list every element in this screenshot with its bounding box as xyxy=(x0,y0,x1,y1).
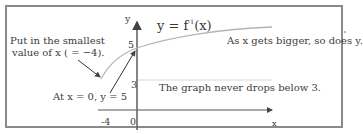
title-prefix: y = f xyxy=(157,18,188,33)
annotation-smallest-line1: Put in the smallest xyxy=(10,35,105,46)
title-suffix: (x) xyxy=(194,18,211,33)
x-axis-label: x xyxy=(272,119,277,129)
annotation-never-below: The graph never drops below 3. xyxy=(159,82,321,93)
tick-label-3: 3 xyxy=(131,80,137,90)
annotation-intercept: At x = 0, y = 5 xyxy=(53,91,127,102)
tick-label-5: 5 xyxy=(128,40,134,50)
annotation-increasing: As x gets bigger, so does y. xyxy=(227,35,363,46)
tick-label-origin: 0 xyxy=(130,117,136,127)
y-axis-label: y xyxy=(125,14,130,24)
tick-label-neg4: -4 xyxy=(101,117,110,127)
annotation-smallest-line2: value of x ( = −4). xyxy=(12,47,105,58)
pointer-arrow-smallest xyxy=(78,60,100,77)
graph-title: y = f-1(x) xyxy=(157,18,212,33)
